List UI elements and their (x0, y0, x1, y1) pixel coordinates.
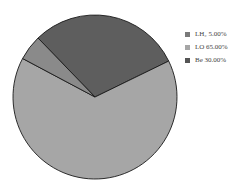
legend-item-be: Be 30.00% (185, 54, 228, 67)
legend-label: LO 65.00% (195, 41, 228, 54)
legend-label: LH₂ 5.00% (195, 28, 227, 41)
legend: LH₂ 5.00% LO 65.00% Be 30.00% (185, 28, 228, 67)
legend-item-lo: LO 65.00% (185, 41, 228, 54)
pie-slices (13, 15, 177, 179)
legend-swatch (185, 58, 190, 63)
legend-label: Be 30.00% (195, 54, 226, 67)
legend-swatch (185, 32, 190, 37)
legend-item-lh2: LH₂ 5.00% (185, 28, 228, 41)
legend-swatch (185, 45, 190, 50)
